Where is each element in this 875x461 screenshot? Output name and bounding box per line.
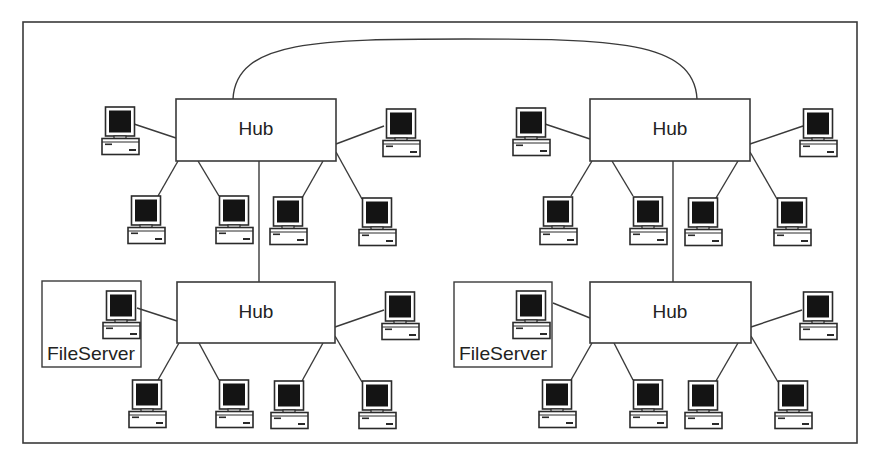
workstation-icon — [800, 292, 837, 340]
workstation-icon — [630, 197, 667, 245]
workstation-icon — [540, 197, 577, 245]
workstation-icon — [774, 198, 811, 246]
workstation-icon — [129, 380, 166, 428]
workstation-icon — [102, 107, 139, 155]
hub-group-top-left: Hub — [102, 99, 420, 246]
workstation-icon — [685, 198, 722, 246]
backbone-link — [233, 39, 697, 99]
workstation-icon — [630, 380, 667, 428]
workstation-icon — [359, 381, 396, 429]
file-server-label: FileServer — [459, 343, 548, 364]
hub-label: Hub — [653, 301, 688, 322]
workstation-icon — [383, 109, 420, 157]
workstation-icon — [775, 381, 812, 429]
workstation-icon — [539, 380, 576, 428]
file-server-label: FileServer — [47, 343, 136, 364]
workstation-icon — [382, 292, 419, 340]
file-server-icon — [513, 291, 550, 339]
workstation-icon — [800, 109, 837, 157]
workstation-icon — [216, 380, 253, 428]
hub-group-bottom-right: FileServer Hub — [454, 282, 837, 429]
workstation-icon — [271, 381, 308, 429]
network-diagram: Hub FileServer Hub Hub — [0, 0, 875, 461]
hub-label: Hub — [653, 118, 688, 139]
workstation-icon — [359, 198, 396, 246]
hub-group-top-right: Hub — [513, 99, 837, 246]
workstation-icon — [685, 381, 722, 429]
workstation-icon — [128, 196, 165, 244]
hub-label: Hub — [239, 301, 274, 322]
workstation-icon — [513, 108, 550, 156]
file-server-icon — [103, 291, 140, 339]
workstation-icon — [216, 196, 253, 244]
hub-group-bottom-left: FileServer Hub — [42, 281, 419, 429]
hub-label: Hub — [239, 118, 274, 139]
workstation-icon — [270, 197, 307, 245]
